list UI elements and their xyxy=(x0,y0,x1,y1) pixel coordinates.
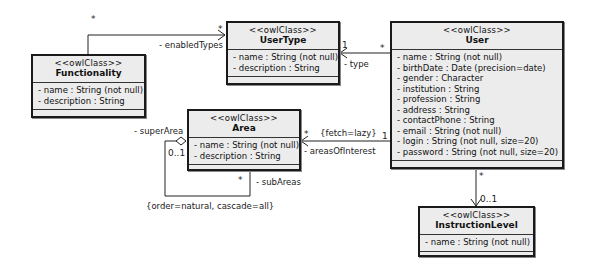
class-header: <<owlClass>> Functionality xyxy=(33,56,144,83)
attribute: - gender : Character xyxy=(397,73,557,84)
attribute: - name : String (not null) xyxy=(194,140,294,151)
attribute: - profession : String xyxy=(397,94,557,105)
attribute: - email : String (not null) xyxy=(397,126,557,137)
constraint-label-fetch-lazy: {fetch=lazy} xyxy=(320,128,377,138)
multiplicity-label: * xyxy=(91,14,96,24)
class-header: <<owlClass>> User xyxy=(392,23,562,50)
role-label-areas-of-interest: - areasOfInterest xyxy=(304,146,376,156)
multiplicity-label: * xyxy=(238,175,243,185)
multiplicity-label: * xyxy=(218,24,223,34)
stereotype: <<owlClass>> xyxy=(422,210,531,220)
attribute: - login : String (not null, size=20) xyxy=(397,136,557,147)
aggregation-diamond-icon xyxy=(176,137,186,145)
class-usertype[interactable]: <<owlClass>> UserType - name : String (n… xyxy=(226,21,340,85)
attributes-compartment: - name : String (not null) - description… xyxy=(33,83,144,110)
stereotype: <<owlClass>> xyxy=(394,25,560,35)
operations-compartment xyxy=(420,252,533,258)
attribute: - description : String xyxy=(38,96,139,107)
attributes-compartment: - name : String (not null) - birthDate :… xyxy=(392,50,562,161)
class-name: InstructionLevel xyxy=(422,220,531,231)
class-name: UserType xyxy=(230,35,336,46)
class-user[interactable]: <<owlClass>> User - name : String (not n… xyxy=(390,21,564,169)
class-header: <<owlClass>> UserType xyxy=(228,23,338,50)
role-label-type: - type xyxy=(344,59,369,69)
operations-compartment xyxy=(228,77,338,83)
stereotype: <<owlClass>> xyxy=(191,113,297,123)
attribute: - name : String (not null) xyxy=(397,52,557,63)
role-label-sub-areas: - subAreas xyxy=(256,177,301,187)
multiplicity-label: * xyxy=(380,43,385,53)
attribute: - institution : String xyxy=(397,84,557,95)
attribute: - name : String (not null) xyxy=(425,237,528,248)
attribute: - description : String xyxy=(194,151,294,162)
attribute: - description : String xyxy=(233,63,333,74)
attribute: - address : String xyxy=(397,105,557,116)
class-name: Functionality xyxy=(35,68,142,79)
multiplicity-label: 1 xyxy=(342,40,348,50)
stereotype: <<owlClass>> xyxy=(230,25,336,35)
role-label-super-area: - superArea xyxy=(134,126,183,136)
multiplicity-label: 0..1 xyxy=(168,148,185,158)
class-header: <<owlClass>> InstructionLevel xyxy=(420,208,533,235)
class-area[interactable]: <<owlClass>> Area - name : String (not n… xyxy=(187,109,301,171)
multiplicity-label: 0..1 xyxy=(480,194,497,204)
attribute: - birthDate : Date (precision=date) xyxy=(397,63,557,74)
operations-compartment xyxy=(392,161,562,167)
class-name: User xyxy=(394,35,560,46)
class-instructionlevel[interactable]: <<owlClass>> InstructionLevel - name : S… xyxy=(418,206,535,257)
class-header: <<owlClass>> Area xyxy=(189,111,299,138)
attribute: - contactPhone : String xyxy=(397,115,557,126)
attributes-compartment: - name : String (not null) - description… xyxy=(189,138,299,165)
operations-compartment xyxy=(33,110,144,116)
constraint-label-order-cascade: {order=natural, cascade=all} xyxy=(146,201,274,211)
role-label-enabled-types: - enabledTypes xyxy=(159,40,223,50)
multiplicity-label: 1 xyxy=(382,131,388,141)
attribute: - name : String (not null) xyxy=(233,52,333,63)
class-functionality[interactable]: <<owlClass>> Functionality - name : Stri… xyxy=(31,54,146,118)
uml-diagram: <<owlClass>> Functionality - name : Stri… xyxy=(0,0,590,267)
attribute: - password : String (not null, size=20) xyxy=(397,147,557,158)
attributes-compartment: - name : String (not null) - description… xyxy=(228,50,338,77)
attributes-compartment: - name : String (not null) xyxy=(420,235,533,252)
stereotype: <<owlClass>> xyxy=(35,58,142,68)
multiplicity-label: * xyxy=(304,129,309,139)
multiplicity-label: * xyxy=(479,171,484,181)
operations-compartment xyxy=(189,165,299,171)
attribute: - name : String (not null) xyxy=(38,85,139,96)
class-name: Area xyxy=(191,123,297,134)
